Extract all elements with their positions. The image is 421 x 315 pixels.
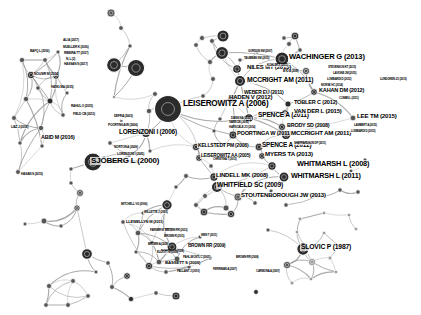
graph-node[interactable] — [18, 141, 22, 145]
graph-node[interactable] — [350, 115, 356, 121]
graph-node[interactable] — [162, 200, 172, 210]
graph-node[interactable] — [107, 9, 115, 17]
graph-node[interactable] — [112, 95, 115, 98]
graph-node[interactable] — [354, 227, 358, 231]
graph-node[interactable] — [194, 43, 199, 48]
graph-node[interactable] — [223, 205, 229, 211]
graph-node[interactable] — [110, 285, 115, 290]
graph-node[interactable] — [128, 296, 133, 301]
graph-node[interactable] — [38, 125, 43, 130]
graph-node[interactable] — [40, 144, 44, 148]
graph-node[interactable] — [194, 203, 199, 208]
node-label: COMBS L (2011) — [338, 97, 359, 100]
graph-node[interactable] — [302, 67, 309, 74]
graph-node[interactable] — [309, 277, 313, 281]
graph-node[interactable] — [128, 44, 132, 48]
graph-node[interactable] — [23, 222, 27, 226]
graph-node[interactable] — [218, 117, 222, 121]
graph-node[interactable] — [298, 217, 302, 221]
graph-node[interactable] — [94, 270, 98, 274]
graph-node[interactable] — [208, 60, 213, 65]
graph-node[interactable] — [291, 32, 299, 40]
graph-node[interactable] — [290, 281, 294, 285]
graph-node[interactable] — [282, 36, 286, 40]
graph-node[interactable] — [238, 58, 242, 62]
graph-node[interactable] — [119, 26, 124, 31]
graph-node[interactable] — [43, 58, 48, 63]
graph-node[interactable] — [44, 303, 49, 308]
graph-node[interactable] — [334, 270, 338, 274]
graph-node[interactable] — [322, 231, 326, 235]
graph-node[interactable] — [56, 50, 60, 54]
graph-node[interactable] — [284, 203, 288, 207]
graph-node[interactable] — [234, 75, 245, 86]
graph-node[interactable] — [266, 228, 270, 232]
graph-node[interactable] — [283, 261, 290, 268]
graph-node[interactable] — [156, 259, 162, 265]
graph-node[interactable] — [210, 39, 215, 44]
graph-node[interactable] — [212, 129, 216, 133]
node-label: LOMBARDI D (2013) — [350, 130, 376, 133]
graph-node[interactable] — [268, 162, 276, 170]
graph-node[interactable] — [41, 218, 47, 224]
graph-node[interactable] — [71, 279, 76, 284]
graph-node[interactable] — [287, 42, 292, 47]
graph-node[interactable] — [201, 94, 205, 98]
graph-node[interactable] — [216, 47, 229, 60]
graph-node[interactable] — [174, 185, 178, 189]
graph-node[interactable] — [172, 292, 180, 300]
graph-node[interactable] — [77, 190, 84, 197]
graph-node[interactable] — [148, 149, 152, 153]
graph-node[interactable] — [203, 194, 208, 199]
graph-node[interactable] — [253, 201, 257, 205]
graph-node[interactable] — [107, 58, 122, 73]
graph-node[interactable] — [124, 273, 130, 279]
graph-node[interactable] — [127, 59, 144, 76]
graph-node[interactable] — [154, 291, 158, 295]
graph-node[interactable] — [59, 224, 63, 228]
graph-node[interactable] — [82, 249, 93, 260]
graph-node[interactable] — [69, 167, 73, 171]
graph-node[interactable] — [66, 303, 71, 308]
graph-node[interactable] — [217, 30, 229, 42]
graph-node[interactable] — [61, 113, 65, 117]
graph-node[interactable] — [153, 92, 158, 97]
graph-node[interactable] — [164, 270, 168, 274]
graph-node[interactable] — [328, 256, 332, 260]
graph-node[interactable] — [47, 284, 52, 289]
graph-node[interactable] — [356, 190, 360, 194]
graph-node[interactable] — [184, 174, 189, 179]
graph-node[interactable] — [69, 181, 73, 185]
graph-node[interactable] — [200, 36, 205, 41]
graph-node[interactable] — [134, 250, 138, 254]
graph-node[interactable] — [74, 205, 80, 211]
graph-node[interactable] — [233, 65, 242, 74]
graph-node[interactable] — [108, 141, 112, 145]
graph-node[interactable] — [227, 210, 234, 217]
graph-node[interactable] — [47, 98, 53, 104]
graph-node[interactable] — [200, 208, 208, 216]
graph-node[interactable] — [285, 101, 291, 107]
graph-node[interactable] — [65, 91, 69, 95]
graph-node[interactable] — [12, 116, 17, 121]
graph-node[interactable] — [254, 290, 259, 295]
graph-node[interactable] — [211, 77, 216, 82]
graph-node[interactable] — [155, 96, 182, 123]
graph-node[interactable] — [209, 164, 213, 168]
graph-node[interactable] — [106, 261, 110, 265]
graph-node[interactable] — [23, 96, 28, 101]
graph-node[interactable] — [322, 211, 326, 215]
graph-node[interactable] — [135, 230, 141, 236]
node-label: LLEWELLYN M (2011) — [125, 220, 164, 224]
graph-node[interactable] — [146, 108, 151, 113]
graph-node[interactable] — [19, 57, 24, 62]
graph-node[interactable] — [338, 188, 342, 192]
graph-node[interactable] — [145, 262, 152, 269]
graph-node[interactable] — [311, 89, 317, 95]
graph-node[interactable] — [308, 258, 315, 265]
graph-node[interactable] — [295, 230, 299, 234]
graph-node[interactable] — [36, 86, 40, 90]
graph-node[interactable] — [347, 213, 351, 217]
node-label: ABID M (2016) — [40, 135, 76, 140]
graph-node[interactable] — [86, 294, 91, 299]
